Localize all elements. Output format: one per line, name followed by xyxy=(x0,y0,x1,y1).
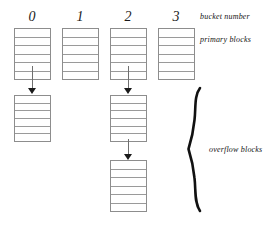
block-cell xyxy=(159,29,194,38)
overflow-block-bucket-2-1 xyxy=(110,95,147,142)
arrow-bucket-0-to-overflow-1 xyxy=(28,66,37,94)
block-cell xyxy=(111,170,146,179)
bucket-number-label-3: 3 xyxy=(158,10,194,24)
block-cell xyxy=(63,38,98,47)
block-cell xyxy=(15,55,50,64)
arrow-bucket-2-to-overflow-1 xyxy=(124,66,133,94)
block-cell xyxy=(111,119,146,127)
bucket-number-label-1: 1 xyxy=(62,10,98,24)
block-cell xyxy=(15,96,50,104)
block-cell xyxy=(159,72,194,80)
block-cell xyxy=(15,134,50,141)
block-cell xyxy=(63,55,98,64)
overflow-block-bucket-0-1 xyxy=(14,95,51,142)
label-bucket-number: bucket number xyxy=(200,12,250,21)
block-cell xyxy=(15,119,50,127)
block-cell xyxy=(111,96,146,104)
block-cell xyxy=(111,178,146,187)
block-cell xyxy=(15,46,50,55)
overflow-brace-icon xyxy=(186,86,208,214)
block-cell xyxy=(111,195,146,204)
block-cell xyxy=(15,38,50,47)
block-cell xyxy=(111,46,146,55)
block-cell xyxy=(111,29,146,38)
block-cell xyxy=(111,187,146,196)
block-cell xyxy=(111,161,146,170)
block-cell xyxy=(15,104,50,112)
hash-bucket-diagram: 0 1 2 3 xyxy=(0,0,277,227)
block-cell xyxy=(63,72,98,80)
block-cell xyxy=(111,104,146,112)
block-cell xyxy=(63,46,98,55)
block-cell xyxy=(111,55,146,64)
block-cell xyxy=(111,204,146,212)
label-primary-blocks: primary blocks xyxy=(200,35,251,44)
block-cell xyxy=(159,63,194,72)
block-cell xyxy=(63,63,98,72)
block-cell xyxy=(111,111,146,119)
block-cell xyxy=(15,111,50,119)
block-cell xyxy=(159,38,194,47)
bucket-number-label-2: 2 xyxy=(110,10,146,24)
block-cell xyxy=(63,29,98,38)
primary-block-bucket-3 xyxy=(158,28,195,80)
label-overflow-blocks: overflow blocks xyxy=(209,145,262,154)
overflow-block-bucket-2-2 xyxy=(110,160,147,212)
bucket-number-label-0: 0 xyxy=(14,10,50,24)
block-cell xyxy=(111,38,146,47)
arrow-bucket-2-overflow-1-to-2 xyxy=(124,139,133,160)
primary-block-bucket-1 xyxy=(62,28,99,80)
block-cell xyxy=(15,127,50,135)
block-cell xyxy=(111,127,146,135)
block-cell xyxy=(15,29,50,38)
block-cell xyxy=(159,55,194,64)
block-cell xyxy=(159,46,194,55)
